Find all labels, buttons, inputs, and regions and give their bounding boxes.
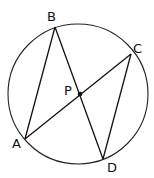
label-d: D xyxy=(107,160,117,175)
label-p: P xyxy=(64,83,72,98)
label-a: A xyxy=(12,136,21,151)
segment-ac xyxy=(25,54,131,139)
chord-diagram: A B C D P xyxy=(0,0,154,178)
label-c: C xyxy=(133,41,142,56)
segment-cd xyxy=(103,54,131,159)
label-b: B xyxy=(47,9,56,24)
point-p-dot xyxy=(78,92,83,97)
